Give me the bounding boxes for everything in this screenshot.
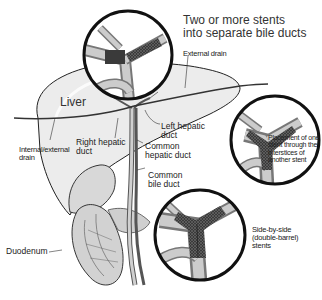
label-left-hepatic-duct: Left hepatic duct [161,122,205,140]
label-side-by-side-stents: Side-by-side (double-barrel) stents [252,226,298,250]
label-stent-through-interstices: Placement of one stent through the inter… [268,134,319,163]
label-right-hepatic-duct: Right hepatic duct [76,138,126,156]
biliary-stent-diagram: Two or more stents into separate bile du… [0,0,322,300]
label-common-hepatic-duct: Common hepatic duct [145,142,191,160]
title-line-2: into separate bile ducts [183,27,306,40]
label-liver: Liver [60,96,86,109]
label-line: another stent [268,156,319,163]
label-internal-external-drain: Internal/external drain [19,146,69,162]
label-line: bile duct [148,180,182,189]
label-common-bile-duct: Common bile duct [148,171,182,189]
side-by-side-stents-inset [155,190,245,290]
label-line: duct [161,131,205,140]
label-line: drain [19,154,69,162]
label-line: stents [252,242,298,250]
label-line: Placement of one [268,134,319,141]
label-line: interstices of [268,149,319,156]
label-duodenum: Duodenum [6,247,48,256]
label-line: hepatic duct [145,151,191,160]
label-line: duct [76,147,126,156]
label-external-drain: External drain [183,50,226,58]
inset-title: Two or more stents into separate bile du… [183,14,306,40]
label-line: stent through the [268,141,319,148]
